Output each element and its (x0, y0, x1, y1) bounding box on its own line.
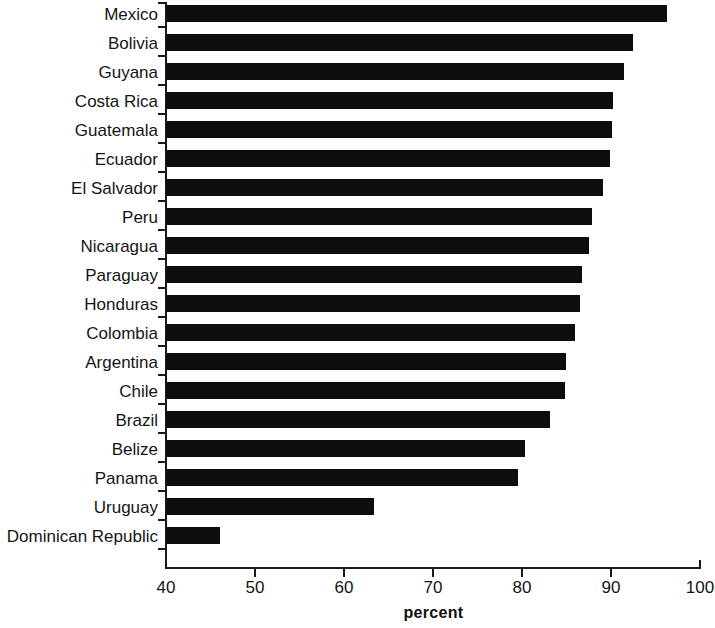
y-axis-tick (158, 374, 166, 376)
y-axis-tick (158, 316, 166, 318)
bar (166, 382, 565, 399)
bar (166, 237, 589, 254)
y-axis-tick (158, 26, 166, 28)
y-axis-tick (158, 171, 166, 173)
bar-category-label: Bolivia (108, 34, 158, 54)
bar (166, 266, 582, 283)
x-axis-tick (699, 560, 701, 568)
y-axis-tick (158, 403, 166, 405)
bar (166, 179, 603, 196)
plot-area: MexicoBoliviaGuyanaCosta RicaGuatemalaEc… (0, 0, 715, 628)
bar-row: Colombia (0, 321, 715, 350)
y-axis-tick (158, 200, 166, 202)
y-axis-tick (158, 345, 166, 347)
y-axis-tick (158, 55, 166, 57)
x-axis-tick (521, 569, 523, 577)
x-axis-tick-label: 100 (670, 578, 715, 598)
x-axis-title: percent (0, 604, 715, 622)
bar (166, 324, 575, 341)
x-axis-title-text: percent (404, 604, 464, 622)
bar-row: Peru (0, 205, 715, 234)
x-axis-tick (343, 569, 345, 577)
bar-row: Bolivia (0, 31, 715, 60)
bar-row: Belize (0, 437, 715, 466)
bar-category-label: Peru (122, 208, 158, 228)
bar (166, 92, 613, 109)
bar (166, 440, 525, 457)
bar-category-label: Chile (119, 382, 158, 402)
y-axis-tick (158, 519, 166, 521)
bar-chart: MexicoBoliviaGuyanaCosta RicaGuatemalaEc… (0, 0, 715, 628)
x-axis-tick (254, 569, 256, 577)
bar-category-label: Argentina (85, 353, 158, 373)
bar-row: Argentina (0, 350, 715, 379)
x-axis-tick-label: 70 (403, 578, 463, 598)
bar-category-label: Paraguay (85, 266, 158, 286)
bar-category-label: Guatemala (75, 121, 158, 141)
bar-category-label: Brazil (115, 411, 158, 431)
bar (166, 353, 566, 370)
x-axis-tick (610, 569, 612, 577)
bar-row: Ecuador (0, 147, 715, 176)
bar-row: Mexico (0, 2, 715, 31)
bar-category-label: Panama (95, 469, 158, 489)
bar-row: Guyana (0, 60, 715, 89)
y-axis-tick (158, 2, 166, 4)
y-axis-tick (158, 548, 166, 550)
y-axis-tick (158, 258, 166, 260)
y-axis-tick (158, 490, 166, 492)
bar (166, 469, 518, 486)
bar-category-label: Ecuador (95, 150, 158, 170)
x-axis-tick-label: 40 (136, 578, 196, 598)
bar-row: Dominican Republic (0, 524, 715, 553)
bar-category-label: Dominican Republic (7, 527, 158, 547)
y-axis-tick (158, 432, 166, 434)
bar-row: Guatemala (0, 118, 715, 147)
x-axis-tick-label: 80 (492, 578, 552, 598)
bar-row: Honduras (0, 292, 715, 321)
bar (166, 34, 633, 51)
bar (166, 150, 610, 167)
y-axis-tick (158, 142, 166, 144)
bar-category-label: Honduras (84, 295, 158, 315)
bar (166, 498, 374, 515)
bar-category-label: El Salvador (71, 179, 158, 199)
bar (166, 121, 612, 138)
bar-row: Panama (0, 466, 715, 495)
bar-category-label: Costa Rica (75, 92, 158, 112)
bar (166, 527, 220, 544)
y-axis-tick (158, 113, 166, 115)
x-axis-tick (165, 560, 167, 568)
bar-row: El Salvador (0, 176, 715, 205)
x-axis-tick-label: 50 (225, 578, 285, 598)
bar-row: Nicaragua (0, 234, 715, 263)
bar (166, 63, 624, 80)
bar-row: Chile (0, 379, 715, 408)
y-axis-tick (158, 229, 166, 231)
bar-row: Costa Rica (0, 89, 715, 118)
bar (166, 208, 592, 225)
x-axis-tick-label: 90 (581, 578, 641, 598)
bar-category-label: Colombia (86, 324, 158, 344)
y-axis-tick (158, 287, 166, 289)
bar-category-label: Mexico (104, 5, 158, 25)
bar (166, 5, 667, 22)
bar-category-label: Guyana (98, 63, 158, 83)
y-axis-tick (158, 84, 166, 86)
bar-category-label: Nicaragua (81, 237, 159, 257)
x-axis-tick-label: 60 (314, 578, 374, 598)
y-axis-tick (158, 461, 166, 463)
bar (166, 295, 580, 312)
x-axis-tick (432, 569, 434, 577)
bar (166, 411, 550, 428)
bar-row: Paraguay (0, 263, 715, 292)
bar-row: Brazil (0, 408, 715, 437)
bar-row: Uruguay (0, 495, 715, 524)
bar-category-label: Belize (112, 440, 158, 460)
bar-category-label: Uruguay (94, 498, 158, 518)
